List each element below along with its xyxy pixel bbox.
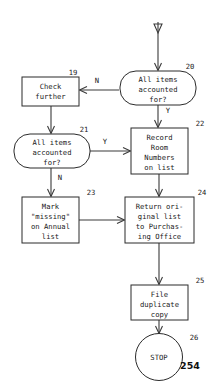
edge-entry-to-n20 (154, 22, 162, 71)
edge-n20-to-n22 (155, 105, 162, 128)
node-20-line-1: All items (139, 75, 178, 84)
node-19-line-1: Check (40, 82, 62, 91)
node-21-line-1: All items (33, 138, 72, 147)
node-25-line-2: duplicate (140, 300, 179, 309)
edge-n20-to-n19 (80, 87, 120, 94)
node-23-line-3: on Annual (31, 222, 70, 231)
node-20-line-3: for? (149, 95, 166, 104)
node-24-line-4: ing Office (138, 232, 181, 241)
edge-n21-to-n23 (48, 168, 55, 197)
node-25-number: 25 (196, 276, 205, 285)
node-22-number: 22 (196, 119, 205, 128)
node-22-line-2: Room (151, 143, 168, 152)
node-19-line-2: further (35, 92, 66, 101)
node-23-mark-missing[interactable]: 23 Mark "missing" on Annual list (22, 188, 95, 243)
node-26-label: STOP (150, 353, 167, 362)
edge-n19-to-n21 (48, 106, 55, 134)
node-20-number: 20 (186, 62, 195, 71)
node-24-line-1: Return ori- (136, 202, 184, 211)
edge-label-n20-yes: Y (166, 106, 171, 115)
node-25-line-1: File (151, 290, 168, 299)
node-24-line-2: ginal list (138, 212, 181, 221)
edge-n24-to-n25 (156, 243, 163, 285)
node-23-line-4: list (42, 232, 59, 241)
node-23-number: 23 (87, 188, 96, 197)
edge-n23-to-n24 (79, 217, 125, 224)
node-22-line-3: Numbers (144, 153, 174, 162)
edge-label-n21-yes: Y (103, 137, 108, 146)
edge-n22-to-n24 (156, 174, 163, 197)
node-20-line-2: accounted (139, 85, 178, 94)
node-24-line-3: to Purchas- (136, 222, 184, 231)
edge-n21-to-n22 (90, 148, 131, 155)
node-26-number: 26 (190, 333, 199, 342)
node-23-line-1: Mark (42, 202, 60, 211)
node-25-line-3: copy (151, 310, 169, 319)
flowchart-canvas: 19 Check further 20 All items accounted … (0, 0, 218, 390)
node-25-file-duplicate-copy[interactable]: 25 File duplicate copy (131, 276, 204, 320)
node-22-record-room-numbers[interactable]: 22 Record Room Numbers on list (131, 119, 204, 174)
node-23-line-2: "missing" (31, 212, 70, 221)
node-21-line-2: accounted (33, 148, 72, 157)
node-22-line-4: on list (144, 163, 174, 172)
edge-n25-to-n26 (156, 320, 163, 334)
node-26-stop-terminator[interactable]: 26 STOP (136, 333, 199, 381)
node-24-return-original-list[interactable]: 24 Return ori- ginal list to Purchas- in… (125, 188, 206, 243)
page-number: 254 (180, 360, 200, 371)
node-21-line-3: for? (43, 158, 60, 167)
node-19-check-further[interactable]: 19 Check further (22, 68, 79, 106)
flowchart-diagram: 19 Check further 20 All items accounted … (0, 0, 218, 390)
node-21-number: 21 (80, 125, 89, 134)
node-24-number: 24 (198, 188, 207, 197)
edge-label-n21-no: N (58, 173, 62, 182)
node-19-number: 19 (69, 68, 78, 77)
node-22-line-1: Record (147, 133, 173, 142)
edge-label-n20-no: N (95, 76, 99, 85)
